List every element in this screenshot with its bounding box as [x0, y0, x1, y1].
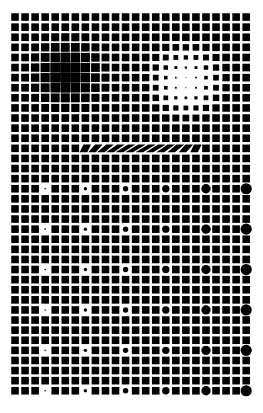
grid-square — [112, 23, 120, 31]
grid-square — [60, 83, 70, 93]
grid-square — [185, 66, 187, 68]
grid-square — [31, 326, 39, 334]
grid-square — [222, 306, 230, 314]
grid-square — [182, 115, 189, 122]
grid-square — [222, 215, 230, 223]
grid-square — [41, 94, 49, 102]
grid-square — [61, 175, 69, 183]
grid-square — [102, 124, 110, 132]
grid-square — [132, 347, 140, 355]
grid-square — [132, 326, 140, 334]
grid-square — [21, 145, 29, 153]
grid-square — [132, 276, 140, 284]
grid-square — [21, 296, 29, 304]
grid-square — [202, 215, 210, 223]
grid-square — [232, 195, 240, 203]
grid-square — [162, 175, 170, 183]
grid-square — [192, 306, 200, 314]
grid-square — [81, 73, 91, 83]
grid-square — [61, 286, 69, 294]
grid-circle — [44, 228, 46, 230]
grid-square — [11, 316, 19, 324]
grid-square — [51, 316, 59, 324]
grid-square — [152, 195, 160, 203]
grid-square — [162, 44, 169, 51]
grid-square — [21, 175, 29, 183]
grid-square — [142, 84, 149, 91]
grid-square — [182, 316, 190, 324]
grid-square — [232, 54, 240, 62]
grid-square — [182, 296, 190, 304]
grid-square — [21, 235, 29, 243]
grid-square — [61, 336, 69, 344]
grid-square — [91, 73, 100, 82]
grid-square — [112, 74, 120, 82]
grid-square — [61, 276, 69, 284]
grid-square — [142, 94, 150, 102]
grid-square — [82, 296, 90, 304]
grid-circle — [44, 269, 46, 271]
grid-square — [31, 377, 39, 385]
grid-square — [102, 104, 110, 112]
grid-square — [132, 134, 140, 142]
grid-square — [182, 235, 190, 243]
grid-square — [41, 276, 49, 284]
grid-square — [21, 286, 29, 294]
grid-square — [232, 155, 240, 163]
grid-square — [164, 65, 168, 69]
grid-square — [31, 185, 39, 193]
grid-square — [232, 44, 240, 52]
grid-square — [72, 266, 80, 274]
grid-square — [102, 54, 110, 62]
grid-square — [102, 44, 110, 52]
grid-square — [61, 215, 69, 223]
grid-square — [122, 367, 130, 375]
grid-square — [182, 256, 190, 264]
grid-square — [11, 64, 19, 72]
grid-square — [162, 215, 170, 223]
grid-square — [51, 195, 59, 203]
grid-square — [182, 215, 190, 223]
grid-circle — [162, 266, 169, 273]
grid-square — [61, 367, 69, 375]
grid-square — [202, 155, 210, 163]
grid-square — [222, 134, 230, 142]
grid-square — [21, 155, 29, 163]
grid-square — [183, 44, 189, 50]
grid-square — [112, 357, 120, 365]
grid-square — [132, 195, 140, 203]
grid-square — [212, 44, 220, 52]
grid-square — [92, 185, 100, 193]
grid-square — [173, 105, 178, 110]
op-art-grid — [0, 0, 263, 413]
grid-square — [152, 347, 160, 355]
grid-square — [102, 225, 110, 233]
grid-square — [195, 87, 197, 89]
grid-square — [41, 33, 49, 41]
grid-square — [152, 134, 160, 142]
grid-square — [212, 215, 220, 223]
grid-square — [142, 347, 150, 355]
grid-square — [112, 175, 120, 183]
grid-square — [232, 266, 240, 274]
grid-square — [31, 256, 39, 264]
grid-square — [202, 377, 210, 385]
grid-square — [41, 357, 49, 365]
grid-square — [152, 357, 160, 365]
grid-square — [102, 94, 110, 102]
grid-square — [222, 94, 230, 102]
grid-square — [31, 134, 39, 142]
grid-square — [11, 336, 19, 344]
grid-square — [122, 165, 130, 173]
grid-circle — [241, 345, 252, 356]
grid-square — [204, 65, 208, 69]
grid-square — [82, 205, 90, 213]
grid-square — [72, 387, 80, 395]
grid-square — [72, 367, 80, 375]
grid-square — [132, 235, 140, 243]
grid-square — [50, 63, 60, 73]
grid-square — [51, 155, 59, 163]
grid-square — [51, 276, 59, 284]
grid-square — [102, 23, 110, 31]
grid-square — [182, 225, 190, 233]
